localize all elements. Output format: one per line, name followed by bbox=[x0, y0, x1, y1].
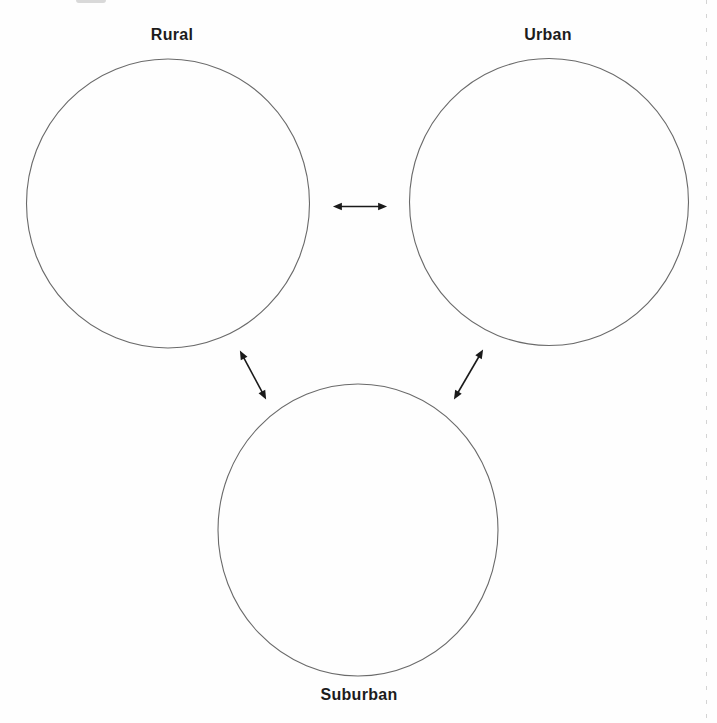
urban-suburban-arrow bbox=[458, 357, 479, 393]
suburban-label: Suburban bbox=[289, 687, 429, 703]
scan-smudge bbox=[76, 0, 106, 3]
diagram-canvas bbox=[0, 0, 717, 723]
urban-label: Urban bbox=[488, 27, 608, 43]
urban-circle bbox=[410, 59, 689, 346]
rural-suburban-arrow bbox=[244, 358, 263, 393]
rural-label: Rural bbox=[112, 27, 232, 43]
page-edge-artifact bbox=[706, 0, 707, 723]
suburban-circle bbox=[218, 384, 498, 676]
rural-circle bbox=[27, 59, 310, 348]
worksheet-page: Rural Urban Suburban bbox=[0, 0, 717, 723]
